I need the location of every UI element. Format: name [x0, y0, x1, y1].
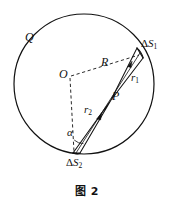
point-label-P: P — [112, 90, 119, 102]
charge-label-Q: Q — [25, 31, 34, 43]
radius-to-s2-line — [70, 78, 74, 152]
distance-r2-label: r2 — [84, 104, 92, 116]
angle-label-alpha: α — [67, 127, 73, 138]
centre-label-O: O — [59, 68, 68, 80]
r2-arrowhead — [97, 112, 102, 120]
area-element-2-subscript: 2 — [79, 161, 83, 170]
distance-r1-label: r1 — [131, 72, 139, 84]
area-element-2-label: ΔS2 — [66, 157, 82, 169]
figure-caption: 图 2 — [0, 182, 174, 198]
distance-r2-subscript: 2 — [88, 108, 92, 117]
area-element-1-subscript: 1 — [154, 42, 158, 51]
distance-r1-subscript: 1 — [135, 76, 139, 85]
figure-container: Q O R ΔS1 r1 P r2 α ΔS2 图 2 — [0, 0, 174, 205]
radius-label-R: R — [101, 56, 108, 68]
area-element-1-label: ΔS1 — [141, 38, 157, 50]
